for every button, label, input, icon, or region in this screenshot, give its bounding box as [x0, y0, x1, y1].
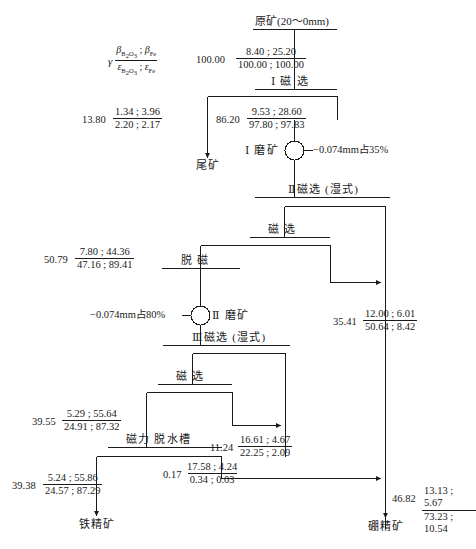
stream-mag2-right-gamma: 35.41 [333, 317, 357, 328]
legend-numerator: βB2O3 ; βFe [114, 44, 158, 60]
stream-dewater-overflow-gamma: 0.17 [163, 470, 181, 481]
op-mill1-label: Ⅰ 磨矿 [245, 145, 279, 156]
product-tailings-label: 尾矿 [196, 160, 220, 171]
stream-mag1-conc-grades: 9.53 ; 28.60 97.80 ; 97.83 [247, 106, 306, 132]
stream-feed-grades: 8.40 ; 25.20 100.00 ; 100.00 [236, 46, 306, 72]
stream-low-mag-gamma: 39.55 [32, 417, 56, 428]
op-mag-sep-low-label: 磁 选 [176, 371, 204, 382]
stream-boron-concentrate-grades: 13.13 ; 5.67 73.23 ; 10.54 [422, 485, 476, 536]
stream-mag1-tail-gamma: 13.80 [82, 115, 106, 126]
stream-iron-concentrate-grades: 5.24 ; 55.86 24.57 ; 87.29 [43, 472, 102, 498]
op-mag1-label: Ⅰ 磁 选 [271, 76, 309, 87]
stream-mid-mag-gamma: 50.79 [44, 255, 68, 266]
legend-gamma: γ [108, 55, 112, 67]
op-mag2-label: Ⅱ磁选 (湿式) [288, 184, 359, 195]
op-mag3-label: Ⅲ磁选 (湿式) [192, 332, 266, 343]
stream-mag1-tail-grades: 1.34 ; 3.96 2.20 ; 2.17 [113, 106, 162, 132]
product-iron-concentrate-label: 铁精矿 [79, 519, 115, 530]
mill1-fineness-note: −0.074mm占35% [313, 145, 388, 156]
stream-mag2-right-grades: 12.00 ; 6.01 50.64 ; 8.42 [363, 308, 417, 334]
product-boron-concentrate-label: 硼精矿 [368, 521, 404, 532]
legend-denominator: εB2O3 ; εFe [115, 60, 157, 77]
stream-dewater-overflow-grades: 17.58 ; 4.24 0.34 ; 0.03 [185, 461, 239, 487]
stream-feed-gamma: 100.00 [196, 55, 225, 66]
stream-mid-mag-grades: 7.80 ; 44.36 47.16 ; 89.41 [75, 246, 134, 272]
stream-low-mag-grades: 5.29 ; 55.64 24.91 ; 87.32 [62, 408, 121, 434]
mill2-fineness-note: −0.074mm占80% [90, 310, 165, 321]
op-demag-label: 脱 磁 [181, 255, 209, 266]
feed-label: 原矿(20～0mm) [255, 16, 329, 27]
op-dewater-label: 磁力 脱水槽 [126, 434, 191, 445]
legend-formula: γ βB2O3 ; βFe εB2O3 ; εFe [108, 44, 158, 78]
op-mill2-label: Ⅱ 磨矿 [212, 310, 249, 321]
stream-iron-concentrate-gamma: 39.38 [12, 481, 36, 492]
stream-mag3-right-grades: 16.61 ; 4.67 22.25 ; 2.09 [238, 434, 292, 460]
stream-boron-concentrate-gamma: 46.82 [392, 494, 416, 505]
stream-mag1-conc-gamma: 86.20 [216, 115, 240, 126]
stream-mag3-right-gamma: 11.24 [210, 443, 233, 454]
op-mag-sep-mid-label: 磁 选 [268, 224, 296, 235]
